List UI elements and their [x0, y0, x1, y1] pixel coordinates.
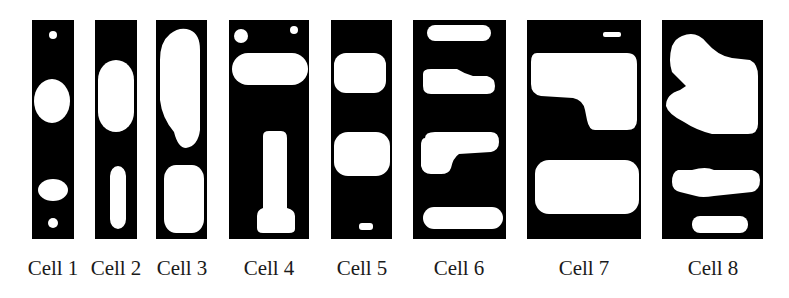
cell-4-panel [229, 20, 309, 239]
cell-2-label: Cell 2 [81, 255, 151, 281]
cell-6-label: Cell 6 [424, 255, 494, 281]
cell-1-label: Cell 1 [18, 255, 88, 281]
cell-6-panel [413, 20, 506, 239]
cell-3-panel [156, 20, 207, 239]
cell-7-panel [527, 20, 641, 239]
cell-5-panel [331, 20, 392, 239]
cell-8-panel [662, 20, 763, 239]
cell-4-mask [229, 20, 309, 239]
cell-5-label: Cell 5 [327, 255, 397, 281]
cell-8-label: Cell 8 [678, 255, 748, 281]
cell-8-mask [662, 20, 763, 239]
cell-7-mask [527, 20, 641, 239]
cell-2-panel [95, 20, 137, 239]
cell-3-mask [156, 20, 207, 239]
cell-segmentation-figure: Cell 1 Cell 2 Cell 3 Cell 4 Cell 5 [0, 0, 789, 298]
cell-6-mask [413, 20, 506, 239]
cell-3-label: Cell 3 [147, 255, 217, 281]
cell-7-label: Cell 7 [549, 255, 619, 281]
cell-1-mask [32, 20, 74, 239]
cell-5-mask [331, 20, 392, 239]
cell-1-panel [32, 20, 74, 239]
cell-2-mask [95, 20, 137, 239]
cell-4-label: Cell 4 [234, 255, 304, 281]
